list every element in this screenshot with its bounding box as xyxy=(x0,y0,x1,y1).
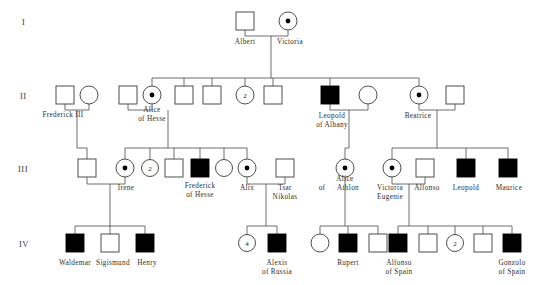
carrier-dot-alice xyxy=(150,93,155,98)
carrier-dot-alix xyxy=(245,166,250,171)
generation-iv-symbols: 4 2 Waldemar Sigismund Henry Alexis of R… xyxy=(59,234,526,276)
mating-line-albert-victoria xyxy=(245,30,288,36)
count-label-iv-2: 2 xyxy=(453,240,457,248)
symbol-female-ii-f1[interactable] xyxy=(80,86,98,104)
label-victoria: Victoria xyxy=(277,38,303,46)
symbol-male-iii-m1[interactable] xyxy=(78,159,96,177)
symbol-male-ii-m5[interactable] xyxy=(264,86,282,104)
label-frederick-hesse-l1: Frederick xyxy=(185,182,216,190)
label-alice-athlone-l3: Athlon xyxy=(337,184,359,192)
label-alexis-l2: of Russia xyxy=(262,268,293,276)
generation-iii-symbols: 2 Irene Frederick of Hesse Alix Tsar Nik… xyxy=(78,159,522,201)
label-irene: Irene xyxy=(118,184,135,192)
symbol-male-ii-m2[interactable] xyxy=(119,86,137,104)
symbol-male-iv-m4[interactable] xyxy=(474,234,492,252)
connector-lines xyxy=(65,30,512,235)
label-alfonso-sp-l2: of Spain xyxy=(386,268,413,276)
symbol-male-rupert[interactable] xyxy=(339,234,357,252)
symbol-male-ii-m4[interactable] xyxy=(203,86,221,104)
symbol-male-waldemar[interactable] xyxy=(66,234,84,252)
label-veugenie-l1: Victoria xyxy=(377,184,403,192)
generation-i-symbols: Albert Victoria xyxy=(235,12,304,46)
pedigree-chart: I II III IV Albert Victoria 2 Frederick … xyxy=(0,0,544,285)
label-maurice: Maurice xyxy=(496,184,522,192)
symbol-male-frederick-of-hesse[interactable] xyxy=(191,159,209,177)
label-alfonso-sp-l1: Alfonso xyxy=(386,259,412,267)
label-gonzolo-l2: of Spain xyxy=(499,268,526,276)
generation-label-i: I xyxy=(22,17,25,27)
label-veugenie-l2: Eugenie xyxy=(377,193,403,201)
symbol-male-maurice[interactable] xyxy=(499,159,517,177)
symbol-male-iv-m2[interactable] xyxy=(369,234,387,252)
label-sigismund: Sigismund xyxy=(96,259,130,267)
label-henry: Henry xyxy=(137,259,157,267)
symbol-male-tsar-nikolas[interactable] xyxy=(276,159,294,177)
label-alfonso: Alfonso xyxy=(414,184,440,192)
label-gonzolo-l1: Gonzolo xyxy=(498,259,525,267)
carrier-dot-alice-athlone xyxy=(343,166,348,171)
carrier-dot-victoria xyxy=(286,19,291,24)
label-rupert: Rupert xyxy=(337,259,359,267)
label-frederick-iii: Frederick III xyxy=(42,111,83,119)
symbol-male-frederick-iii[interactable] xyxy=(56,86,74,104)
label-leopold: Leopold xyxy=(453,184,479,192)
symbol-male-leopold-of-albany[interactable] xyxy=(321,86,339,104)
label-albert: Albert xyxy=(235,38,255,46)
symbol-male-alfonso-of-spain[interactable] xyxy=(389,234,407,252)
label-leopold-albany-l1: Leopold xyxy=(319,112,345,120)
symbol-male-sigismund[interactable] xyxy=(101,234,119,252)
label-tsar-l1: Tsar xyxy=(278,184,292,192)
symbol-male-albert[interactable] xyxy=(236,12,254,30)
generation-labels: I II III IV xyxy=(18,17,29,249)
symbol-female-iv-f1[interactable] xyxy=(311,234,329,252)
count-label-ii-2: 2 xyxy=(243,92,247,100)
label-frederick-hesse-l2: of Hesse xyxy=(186,191,214,199)
symbol-female-iii-f3[interactable] xyxy=(216,160,233,177)
label-alice-athlone-l1: Alice xyxy=(336,175,353,183)
count-label-iii-2: 2 xyxy=(148,165,152,173)
symbol-male-ii-m3[interactable] xyxy=(175,86,193,104)
label-alice-line1: Alice xyxy=(143,106,160,114)
generation-label-ii: II xyxy=(20,91,27,101)
label-alexis-l1: Alexis xyxy=(267,259,288,267)
carrier-dot-beatrice xyxy=(417,93,422,98)
symbol-male-ii-m7[interactable] xyxy=(446,86,464,104)
pedigree-svg: I II III IV Albert Victoria 2 Frederick … xyxy=(0,0,544,285)
label-alice-line2: of Hesse xyxy=(138,115,166,123)
carrier-dot-victoria-eugenie xyxy=(390,166,395,171)
symbol-male-gonzolo-of-spain[interactable] xyxy=(503,234,521,252)
label-tsar-l2: Nikolas xyxy=(273,193,298,201)
label-leopold-albany-l2: of Albany xyxy=(316,121,348,129)
generation-ii-symbols: 2 Frederick III Alice of Hesse Leopold o… xyxy=(42,86,464,129)
label-alix: Alix xyxy=(240,184,254,192)
symbol-male-iv-m3[interactable] xyxy=(419,234,437,252)
generation-label-iv: IV xyxy=(19,239,29,249)
symbol-male-iii-m2[interactable] xyxy=(165,159,183,177)
carrier-dot-irene xyxy=(123,166,128,171)
symbol-male-henry[interactable] xyxy=(136,234,154,252)
symbol-male-leopold[interactable] xyxy=(457,159,475,177)
count-label-iv-4: 4 xyxy=(245,240,249,248)
symbol-male-alfonso[interactable] xyxy=(416,159,434,177)
generation-label-iii: III xyxy=(18,164,28,174)
label-alice-athlone-l2: of xyxy=(319,184,326,192)
label-beatrice: Beatrice xyxy=(405,112,432,120)
symbol-male-alexis-of-russia[interactable] xyxy=(268,234,286,252)
symbol-female-ii-f6[interactable] xyxy=(359,86,377,104)
label-waldemar: Waldemar xyxy=(59,259,91,267)
